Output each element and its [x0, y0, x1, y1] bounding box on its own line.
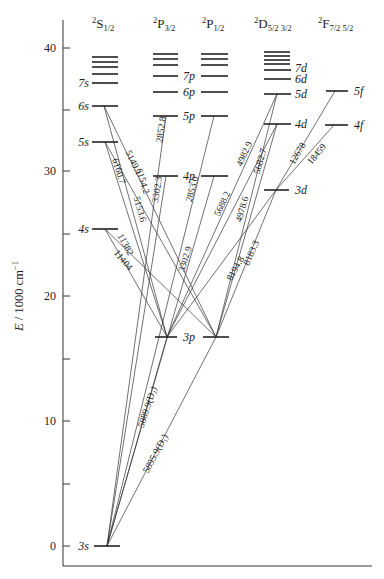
label-5s: 5s	[78, 135, 89, 149]
label-5f: 5f	[354, 84, 365, 98]
wl-8183-3: 8183.3	[241, 239, 261, 267]
label-5d: 5d	[295, 87, 308, 101]
tick-label-30: 30	[44, 164, 56, 178]
header-S: 2S1/2	[92, 15, 114, 33]
wl-12678: 12678	[287, 140, 308, 166]
label-3s: 3s	[77, 539, 89, 553]
levels-D: 3d 4d 5d 6d 7d	[264, 52, 308, 197]
label-7p: 7p	[183, 69, 195, 83]
label-6p: 6p	[183, 85, 195, 99]
transition-11382	[105, 229, 167, 337]
tick-label-0: 0	[50, 539, 56, 553]
header-P32: 2P3/2	[153, 15, 175, 33]
transition-4978-6	[216, 94, 277, 337]
wl-2852-8: 2852.8	[154, 116, 168, 144]
label-3p: 3p	[182, 330, 195, 344]
label-4f: 4f	[354, 118, 365, 132]
header-F: 2F7/2 5/2	[318, 15, 353, 33]
label-4s: 4s	[78, 222, 89, 236]
transition-3302-3	[107, 176, 166, 546]
wl-18459: 18459	[305, 142, 328, 167]
wl-D1: 5895.9(D₁)	[141, 432, 171, 475]
label-7s: 7s	[78, 76, 89, 90]
label-7d: 7d	[295, 61, 308, 75]
wl-5149-1: 5149.1	[123, 149, 144, 177]
tick-label-20: 20	[44, 289, 56, 303]
wl-5688-2: 5688.2	[212, 190, 232, 218]
term-headers: 2S1/2 2P3/2 2P1/2 2D5/2 3/2 2F7/2 5/2	[92, 15, 353, 33]
wl-3302-9: 3302.9	[177, 245, 194, 273]
wl-D2: 5889.9(D₂)	[136, 385, 160, 429]
transition-18459	[276, 125, 334, 190]
wl-5153-6: 5153.6	[131, 195, 148, 223]
levels-F: 4f 5f	[325, 84, 365, 132]
label-4d: 4d	[295, 117, 308, 131]
label-6s: 6s	[78, 99, 89, 113]
header-D: 2D5/2 3/2	[254, 15, 292, 33]
header-P12: 2P1/2	[202, 15, 224, 33]
wl-3302-3: 3302.3	[150, 176, 164, 204]
label-3d: 3d	[294, 183, 308, 197]
wl-6160-7: 6160.7	[110, 157, 128, 185]
wl-4982-9: 4982.9	[234, 140, 254, 168]
y-axis-label: E / 1000 cm−1	[10, 261, 26, 332]
grotrian-diagram: 40 30 20 10 0 E / 1000 cm−1 2S1/2 2P3/2 …	[0, 0, 384, 579]
transition-12678	[276, 91, 335, 190]
levels-S: 3s 4s 5s 6s 7s	[77, 57, 120, 553]
tick-label-10: 10	[44, 414, 56, 428]
tick-label-40: 40	[44, 41, 56, 55]
label-5p: 5p	[183, 109, 195, 123]
